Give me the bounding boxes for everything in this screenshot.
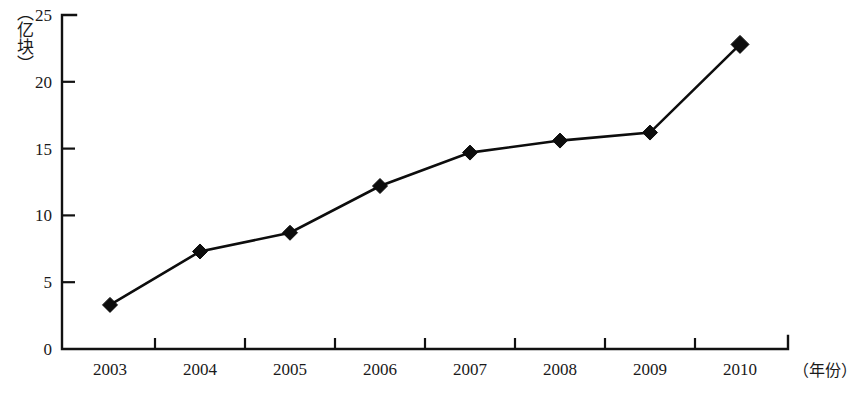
chart-axes — [62, 15, 788, 349]
y-tick-label: 15 — [35, 140, 52, 159]
x-axis-tick-labels: 20032004200520062007200820092010 — [93, 360, 757, 379]
y-axis-tick-labels: 0510152025 — [35, 6, 52, 359]
y-tick-label: 10 — [35, 206, 52, 225]
x-tick-label: 2004 — [183, 360, 218, 379]
line-chart-plot: 0510152025 20032004200520062007200820092… — [0, 0, 857, 410]
y-tick-label: 25 — [35, 6, 52, 25]
x-tick-label: 2005 — [273, 360, 307, 379]
x-tick-label: 2008 — [543, 360, 577, 379]
y-axis-tick-marks — [62, 82, 75, 282]
data-point-marker — [373, 179, 388, 194]
x-axis-tick-marks — [155, 338, 695, 349]
x-tick-label: 2003 — [93, 360, 127, 379]
data-point-marker — [553, 133, 568, 148]
y-tick-label: 20 — [35, 73, 52, 92]
x-tick-label: 2006 — [363, 360, 397, 379]
data-point-markers — [103, 35, 750, 312]
y-tick-label: 0 — [44, 340, 53, 359]
data-point-marker — [193, 244, 208, 259]
x-tick-label: 2007 — [453, 360, 488, 379]
chart-page: （亿块） （年份） 0510152025 2003200420052006200… — [0, 0, 857, 410]
x-tick-label: 2010 — [723, 360, 757, 379]
data-point-marker — [103, 297, 118, 312]
x-tick-label: 2009 — [633, 360, 667, 379]
y-tick-label: 5 — [44, 273, 53, 292]
data-point-marker — [283, 225, 298, 240]
data-point-marker — [463, 145, 478, 160]
data-series-line — [110, 44, 740, 305]
